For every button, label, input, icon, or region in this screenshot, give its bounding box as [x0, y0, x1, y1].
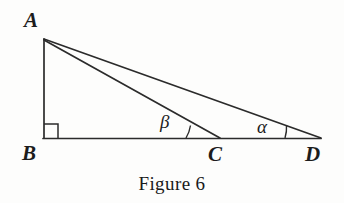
- angle-label-beta: β: [160, 112, 169, 131]
- segment-ac: [44, 40, 220, 138]
- vertex-label-b: B: [22, 143, 36, 164]
- alpha-angle-arc: [285, 125, 287, 138]
- vertex-label-c: C: [208, 144, 222, 165]
- figure-container: A B C D β α Figure 6: [0, 0, 344, 203]
- vertex-label-a: A: [24, 10, 38, 31]
- right-angle-marker: [44, 124, 58, 138]
- vertex-label-d: D: [305, 144, 320, 165]
- angle-label-alpha: α: [257, 117, 267, 136]
- beta-angle-arc: [186, 126, 191, 139]
- segment-ad: [44, 39, 321, 138]
- figure-caption: Figure 6: [0, 173, 344, 195]
